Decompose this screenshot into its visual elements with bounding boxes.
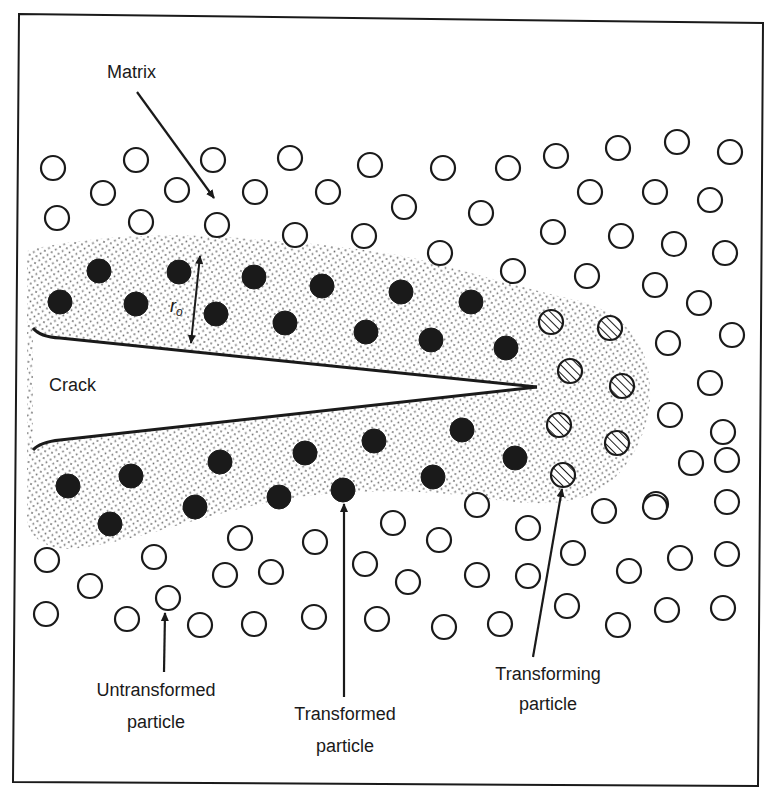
- transformed-particle: [310, 274, 334, 298]
- untransformed-particle: [575, 264, 599, 288]
- untransformed-particle: [541, 220, 565, 244]
- untransformed-particle: [35, 548, 59, 572]
- untransformed-particle: [656, 331, 680, 355]
- untransformed-particle: [469, 201, 493, 225]
- untransformed-particle: [465, 493, 489, 517]
- untransformed-arrow: [164, 613, 165, 672]
- untransformed-particle: [488, 612, 512, 636]
- untransformed-particle: [555, 594, 579, 618]
- untransformed-particle: [544, 144, 568, 168]
- transformed-particle: [119, 464, 143, 488]
- untransformed-particle: [428, 241, 452, 265]
- untransformed-particle: [427, 528, 451, 552]
- untransformed-particle: [392, 195, 416, 219]
- untransformed-particle: [78, 574, 102, 598]
- transformed-particle: [450, 418, 474, 442]
- untransformed-particle: [213, 563, 237, 587]
- untransformed-particle: [592, 499, 616, 523]
- transforming-particle: [558, 359, 582, 383]
- untransformed-particle: [665, 130, 689, 154]
- transforming-label-line1: Transforming: [495, 664, 600, 684]
- transformed-particle: [503, 446, 527, 470]
- untransformed-particle: [188, 613, 212, 637]
- untransformed-particle: [609, 224, 633, 248]
- transformed-label-line2: particle: [316, 736, 374, 756]
- transformed-particle: [183, 495, 207, 519]
- transformed-particle: [273, 311, 297, 335]
- untransformed-particle: [606, 613, 630, 637]
- transformed-particle: [419, 328, 443, 352]
- untransformed-particle: [698, 371, 722, 395]
- untransformed-particle: [259, 560, 283, 584]
- untransformed-particle: [658, 403, 682, 427]
- untransformed-particle: [156, 586, 180, 610]
- transformed-particle: [267, 485, 291, 509]
- transformed-particle: [331, 478, 355, 502]
- transformed-label-line1: Transformed: [294, 704, 395, 724]
- untransformed-particle: [718, 140, 742, 164]
- untransformed-particle: [201, 148, 225, 172]
- untransformed-particle: [668, 546, 692, 570]
- transformed-particle: [362, 429, 386, 453]
- untransformed-particle: [302, 605, 326, 629]
- untransformed-particle: [687, 291, 711, 315]
- untransformed-particle: [91, 181, 115, 205]
- untransformed-particle: [715, 448, 739, 472]
- untransformed-particle: [358, 153, 382, 177]
- transforming-particle: [598, 316, 622, 340]
- untransformed-particle: [129, 210, 153, 234]
- untransformed-particle: [715, 490, 739, 514]
- untransformed-particle: [711, 596, 735, 620]
- untransformed-particle: [353, 552, 377, 576]
- untransformed-label-line2: particle: [127, 712, 185, 732]
- untransformed-particle: [396, 570, 420, 594]
- untransformed-particle: [432, 615, 456, 639]
- untransformed-particle: [643, 273, 667, 297]
- untransformed-particle: [242, 612, 266, 636]
- untransformed-particle: [243, 180, 267, 204]
- matrix-label: Matrix: [107, 62, 156, 82]
- untransformed-particle: [655, 598, 679, 622]
- untransformed-particle: [278, 146, 302, 170]
- transformed-particle: [208, 450, 232, 474]
- untransformed-particle: [352, 224, 376, 248]
- untransformed-particle: [679, 451, 703, 475]
- untransformed-particle: [713, 241, 737, 265]
- untransformed-particle: [715, 542, 739, 566]
- transformed-particle: [87, 259, 111, 283]
- untransformed-particle: [561, 541, 585, 565]
- transformed-particle: [48, 290, 72, 314]
- transformed-particle: [56, 474, 80, 498]
- untransformed-particle: [381, 511, 405, 535]
- untransformed-particle: [578, 180, 602, 204]
- transformed-particle: [124, 292, 148, 316]
- untransformed-particle: [283, 223, 307, 247]
- untransformed-particle: [142, 545, 166, 569]
- untransformed-particle: [516, 564, 540, 588]
- untransformed-particle: [662, 232, 686, 256]
- transforming-particle: [610, 374, 634, 398]
- transformed-particle: [354, 320, 378, 344]
- untransformed-particle: [124, 148, 148, 172]
- transformed-particle: [421, 465, 445, 489]
- untransformed-particle: [643, 180, 667, 204]
- untransformed-particle: [711, 420, 735, 444]
- transforming-label-line2: particle: [519, 694, 577, 714]
- transforming-particle: [605, 431, 629, 455]
- untransformed-particle: [316, 180, 340, 204]
- transformed-particle: [293, 441, 317, 465]
- transformation-toughening-diagram: ro Matrix Crack Untransformed particle T…: [0, 0, 775, 804]
- untransformed-particle: [165, 178, 189, 202]
- untransformed-particle: [643, 495, 667, 519]
- untransformed-particle: [303, 530, 327, 554]
- transformed-particle: [494, 336, 518, 360]
- untransformed-particle: [45, 206, 69, 230]
- untransformed-particle: [41, 156, 65, 180]
- transformed-particle: [389, 280, 413, 304]
- transformed-particle: [98, 512, 122, 536]
- untransformed-particle: [365, 607, 389, 631]
- untransformed-particle: [496, 156, 520, 180]
- untransformed-particle: [720, 323, 744, 347]
- transformed-particle: [167, 260, 191, 284]
- untransformed-label-line1: Untransformed: [96, 680, 215, 700]
